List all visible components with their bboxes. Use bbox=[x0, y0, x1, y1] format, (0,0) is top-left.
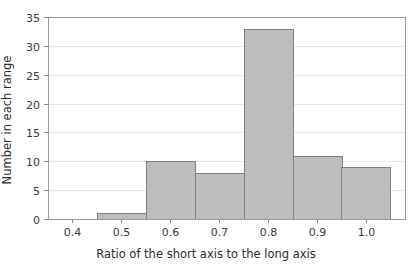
y-axis-title: Number in each range bbox=[0, 56, 14, 185]
x-tick-label: 0.5 bbox=[113, 226, 131, 239]
x-tick-label: 0.8 bbox=[260, 226, 278, 239]
histogram-bar bbox=[245, 30, 294, 220]
y-tick-label: 20 bbox=[26, 99, 40, 112]
histogram-chart: 05101520253035 0.40.50.60.70.80.91.0 Rat… bbox=[0, 0, 413, 265]
histogram-bar bbox=[294, 157, 343, 220]
x-axis-title: Ratio of the short axis to the long axis bbox=[96, 247, 316, 261]
chart-canvas: 05101520253035 0.40.50.60.70.80.91.0 Rat… bbox=[0, 0, 413, 265]
x-tick-label: 1.0 bbox=[358, 226, 376, 239]
y-tick-label: 15 bbox=[26, 127, 40, 140]
y-tick-label: 30 bbox=[26, 41, 40, 54]
x-tick-label: 0.7 bbox=[211, 226, 229, 239]
y-tick-label: 0 bbox=[33, 214, 40, 227]
y-tick-label: 5 bbox=[33, 185, 40, 198]
histogram-bar bbox=[342, 168, 391, 220]
histogram-bar bbox=[98, 214, 147, 220]
histogram-bar bbox=[196, 174, 245, 220]
x-tick-label: 0.4 bbox=[64, 226, 82, 239]
x-tick-label: 0.6 bbox=[162, 226, 180, 239]
y-tick-label: 35 bbox=[26, 12, 40, 25]
histogram-bar bbox=[147, 162, 196, 220]
y-tick-label: 25 bbox=[26, 70, 40, 83]
y-tick-label: 10 bbox=[26, 156, 40, 169]
x-tick-label: 0.9 bbox=[309, 226, 327, 239]
